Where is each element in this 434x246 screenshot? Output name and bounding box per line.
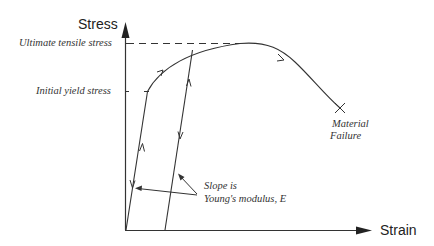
y-axis-label: Stress bbox=[78, 16, 118, 32]
unloading-line bbox=[165, 50, 193, 230]
slope-label-1: Slope is bbox=[204, 180, 237, 191]
arrow-up-icon bbox=[140, 144, 145, 152]
slope-pointer-1 bbox=[138, 189, 197, 196]
slope-label-2: Young's modulus, E bbox=[204, 193, 286, 204]
y-axis-arrow-icon bbox=[122, 22, 130, 38]
yield-stress-label: Initial yield stress bbox=[36, 85, 111, 96]
ultimate-stress-label: Ultimate tensile stress bbox=[19, 37, 112, 48]
x-axis-arrow-icon bbox=[356, 227, 372, 235]
descent-arrow-icon bbox=[277, 54, 284, 61]
arrow-down-icon bbox=[130, 180, 135, 188]
slope-pointer-1-head-icon bbox=[135, 186, 142, 192]
failure-label-1: Material bbox=[332, 118, 369, 129]
failure-label-2: Failure bbox=[330, 130, 361, 141]
reload-arrow-up-icon bbox=[187, 79, 192, 87]
stress-curve bbox=[148, 43, 341, 108]
elastic-loading-line bbox=[126, 92, 148, 231]
x-axis-label: Strain bbox=[380, 222, 417, 238]
